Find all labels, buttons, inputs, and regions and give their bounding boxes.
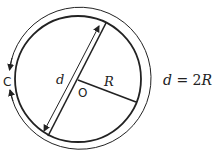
- formula-variable: R: [202, 72, 213, 88]
- formula-equals: =: [176, 72, 188, 88]
- circumference-arc: [10, 7, 152, 149]
- center-label: O: [78, 86, 87, 100]
- diameter-arrow-icon: [44, 80, 71, 131]
- circumference-arrow-upper-icon: [10, 58, 13, 70]
- formula-coefficient: 2: [193, 72, 202, 88]
- radius-label: R: [103, 74, 114, 89]
- formula-diameter-equals-2r: d = 2R: [163, 72, 212, 88]
- diameter-label: d: [56, 72, 64, 87]
- circumference-arrow-lower-icon: [10, 90, 13, 101]
- circumference-label: C: [3, 75, 11, 89]
- diameter-arrow-icon: [71, 26, 99, 80]
- formula-lhs: d: [163, 72, 172, 88]
